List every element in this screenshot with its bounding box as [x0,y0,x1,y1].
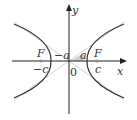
left-c-label: −c [33,63,48,76]
right-c-label: c [95,63,101,76]
right-focus-label: F [93,47,102,60]
hyperbola-diagram: y x 0 F F −c c −a a [0,0,137,120]
left-a-label: −a [54,49,70,62]
origin-label: 0 [70,66,77,79]
x-axis-label: x [117,65,124,78]
y-axis-label: y [71,4,79,17]
left-focus-label: F [36,47,45,60]
right-a-label: a [80,49,87,62]
x-axis-arrow-icon [120,58,127,64]
